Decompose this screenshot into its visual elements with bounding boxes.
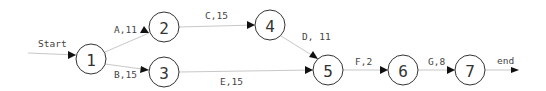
node-label: 5	[323, 62, 333, 81]
edge-label-a: A,11	[114, 24, 137, 35]
arrowhead-icon	[447, 66, 455, 74]
arrowhead-icon	[309, 51, 318, 59]
node-1: 1	[76, 44, 106, 74]
edge-label-end: end	[497, 55, 514, 66]
node-label: 2	[159, 19, 169, 38]
arrowhead-icon	[140, 26, 149, 33]
node-label: 6	[398, 62, 408, 81]
node-label: 1	[86, 51, 96, 70]
node-3: 3	[149, 57, 179, 87]
node-label: 7	[465, 62, 475, 81]
node-4: 4	[255, 10, 285, 40]
arrowhead-icon	[140, 66, 149, 73]
edge-label-start: Start	[38, 38, 67, 49]
arrowhead-icon	[511, 67, 519, 73]
arrowhead-icon	[305, 66, 313, 74]
arrowhead-icon	[68, 51, 76, 59]
edge-label-g: G,8	[428, 56, 445, 67]
network-diagram: 1 2 3 4 5 6 7 Start A,11 B,1	[0, 0, 546, 91]
edge-label-f: F,2	[355, 56, 372, 67]
arrowhead-icon	[247, 21, 255, 29]
node-7: 7	[455, 55, 485, 85]
arrowhead-icon	[380, 66, 388, 74]
edge-1-2	[105, 33, 149, 52]
edge-label-e: E,15	[220, 76, 243, 87]
node-5: 5	[313, 55, 343, 85]
node-2: 2	[149, 12, 179, 42]
node-6: 6	[388, 55, 418, 85]
edge-label-c: C,15	[205, 10, 228, 21]
edge-label-d: D, 11	[302, 31, 331, 42]
edge-2-4	[179, 25, 255, 27]
node-label: 4	[265, 17, 275, 36]
diagram-canvas: 1 2 3 4 5 6 7 Start A,11 B,1	[0, 0, 546, 91]
edge-label-b: B,15	[114, 69, 137, 80]
edge-3-5	[179, 70, 313, 72]
node-label: 3	[159, 64, 169, 83]
